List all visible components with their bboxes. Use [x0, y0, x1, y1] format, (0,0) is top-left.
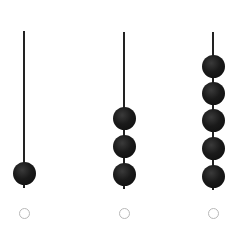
bead	[202, 137, 225, 160]
bead	[113, 107, 136, 130]
bead	[202, 82, 225, 105]
answer-radio-2[interactable]	[119, 208, 130, 219]
bead	[13, 162, 36, 185]
answer-radio-3[interactable]	[208, 208, 219, 219]
bead	[202, 109, 225, 132]
bead	[113, 163, 136, 186]
answer-radio-1[interactable]	[19, 208, 30, 219]
bead	[202, 165, 225, 188]
bead	[202, 55, 225, 78]
bead	[113, 135, 136, 158]
